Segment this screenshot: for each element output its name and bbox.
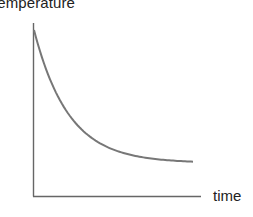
- decay-curve: [34, 30, 193, 162]
- temperature-time-chart: temperature time: [0, 0, 253, 217]
- x-axis-label: time: [213, 187, 241, 204]
- chart-plot: [0, 0, 253, 217]
